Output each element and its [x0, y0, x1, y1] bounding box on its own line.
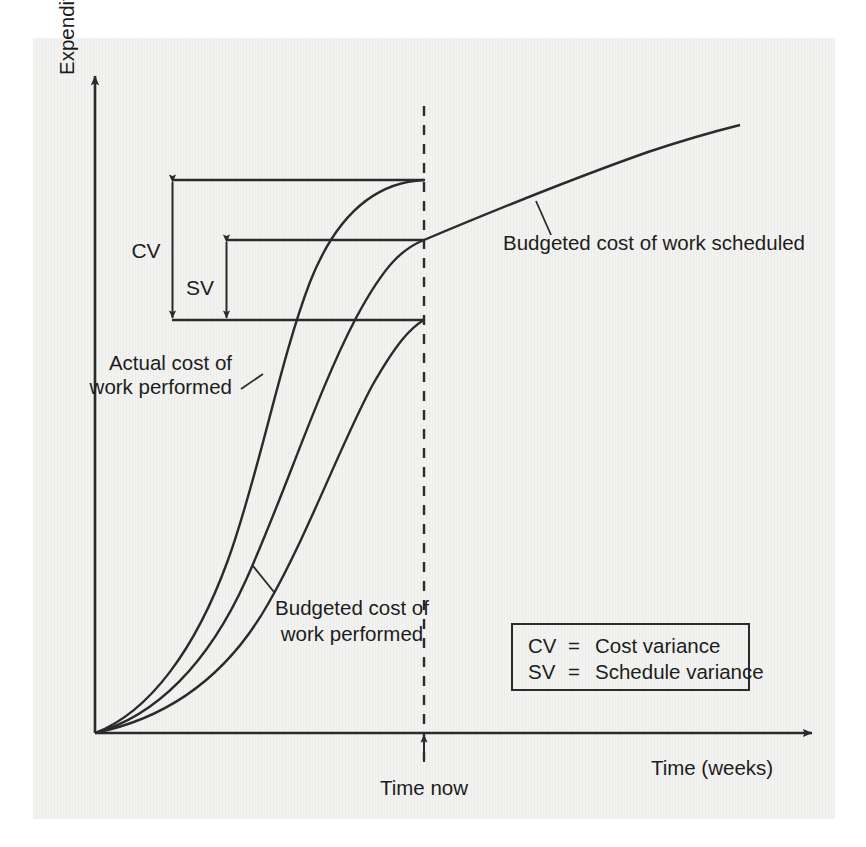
- bcws-label-line-1: Budgeted cost of work scheduled: [503, 231, 805, 254]
- curve-acwp: [95, 180, 424, 733]
- bcwp-label-line-2: work performed: [280, 622, 423, 645]
- acwp-label-line-1: Actual cost of: [109, 351, 232, 374]
- key-cv-name: Cost variance: [595, 634, 720, 657]
- bcws-leader-line: [536, 201, 551, 235]
- key-cv-equals: =: [568, 634, 580, 657]
- y-axis-label: Expenditure (£): [55, 0, 78, 75]
- cv-label: CV: [131, 239, 160, 262]
- x-axis-label: Time (weeks): [651, 756, 773, 779]
- acwp-label-line-2: work performed: [89, 375, 232, 398]
- sv-label: SV: [186, 276, 214, 299]
- earned-value-chart: CV SV Time now Time (weeks) Expenditure …: [0, 0, 866, 847]
- key-sv-equals: =: [568, 660, 580, 683]
- key-sv-name: Schedule variance: [595, 660, 764, 683]
- key-cv-abbr: CV: [528, 634, 557, 657]
- reference-lines: [172, 180, 425, 320]
- figure-page: CV SV Time now Time (weeks) Expenditure …: [0, 0, 866, 847]
- key-sv-abbr: SV: [528, 660, 556, 683]
- key-box: CV = Cost variance SV = Schedule varianc…: [512, 624, 764, 690]
- bcwp-leader-line: [253, 566, 274, 592]
- acwp-leader-line: [241, 374, 263, 389]
- bcwp-label-line-1: Budgeted cost of: [275, 596, 429, 619]
- time-now-label: Time now: [380, 776, 468, 799]
